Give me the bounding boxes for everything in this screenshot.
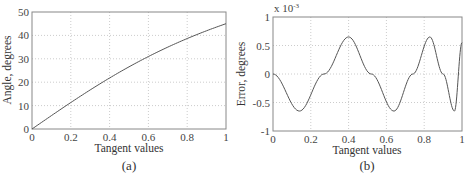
svg-text:0: 0 xyxy=(29,131,35,143)
chart-a: 00.20.40.60.8101020304050 Tangent values… xyxy=(0,0,234,175)
svg-text:20: 20 xyxy=(18,76,30,88)
chart-a-axes-box xyxy=(32,12,226,129)
chart-a-xlabel: Tangent values xyxy=(94,142,164,155)
svg-text:-0.5: -0.5 xyxy=(253,97,271,109)
chart-b: 00.20.40.60.81-1-0.500.51 x 10-3 Tangent… xyxy=(234,0,468,175)
svg-text:0: 0 xyxy=(270,133,276,145)
svg-text:40: 40 xyxy=(18,29,30,41)
svg-text:0: 0 xyxy=(24,123,30,135)
chart-b-caption: (b) xyxy=(359,158,374,173)
svg-text:0.2: 0.2 xyxy=(304,133,318,145)
chart-a-panel: 00.20.40.60.8101020304050 Tangent values… xyxy=(0,0,234,175)
svg-text:0.8: 0.8 xyxy=(417,133,431,145)
chart-b-grid xyxy=(273,17,462,131)
svg-text:10: 10 xyxy=(18,100,30,112)
svg-text:1: 1 xyxy=(265,11,271,23)
svg-text:1: 1 xyxy=(459,133,465,145)
svg-text:0.5: 0.5 xyxy=(256,40,270,52)
svg-text:50: 50 xyxy=(18,6,30,18)
chart-b-multiplier: x 10-3 xyxy=(274,2,300,14)
svg-text:0: 0 xyxy=(265,68,271,80)
chart-a-line xyxy=(32,24,226,129)
chart-b-tick-labels: 00.20.40.60.81-1-0.500.51 xyxy=(253,11,465,145)
chart-a-grid xyxy=(32,12,226,129)
chart-b-line xyxy=(273,37,462,111)
svg-text:0.2: 0.2 xyxy=(64,131,78,143)
chart-b-panel: 00.20.40.60.81-1-0.500.51 x 10-3 Tangent… xyxy=(234,0,468,175)
svg-text:0.8: 0.8 xyxy=(180,131,194,143)
chart-a-tick-labels: 00.20.40.60.8101020304050 xyxy=(18,6,229,143)
chart-b-ylabel: Error, degrees xyxy=(235,41,248,106)
chart-b-axes-box xyxy=(273,17,462,131)
chart-b-xlabel: Tangent values xyxy=(332,144,402,157)
svg-text:30: 30 xyxy=(18,53,30,65)
chart-a-caption: (a) xyxy=(122,158,136,173)
svg-text:-1: -1 xyxy=(261,125,270,137)
svg-text:1: 1 xyxy=(223,131,229,143)
chart-a-ylabel: Angle, degrees xyxy=(1,35,14,104)
